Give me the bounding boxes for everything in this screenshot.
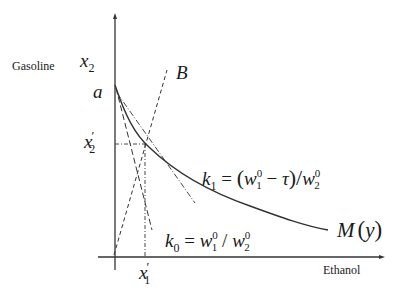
line-b	[114, 70, 167, 255]
y-axis-arrow-icon	[113, 13, 117, 19]
curve-m-label: M(y)	[336, 217, 382, 242]
point-a-label: a	[93, 81, 103, 102]
line-k0	[116, 88, 152, 230]
x1-prime-label: x′1	[138, 259, 150, 287]
x-axis-label: Ethanol	[323, 263, 361, 277]
x-axis-arrow-icon	[379, 255, 385, 259]
line-k1	[117, 93, 195, 203]
k0-label: k0 = w01 / w02	[165, 229, 251, 255]
diagram-canvas: Gasoline Ethanol x2 a B x′2 x′1 k1 = (w0…	[0, 0, 395, 290]
curve-m	[115, 85, 328, 230]
k1-label: k1 = (w01 − τ)/w02	[202, 165, 321, 193]
y-axis-label: Gasoline	[12, 59, 55, 73]
x2-prime-label: x′2	[83, 128, 95, 156]
y-var-label: x2	[79, 50, 94, 75]
point-b-label: B	[176, 62, 188, 83]
